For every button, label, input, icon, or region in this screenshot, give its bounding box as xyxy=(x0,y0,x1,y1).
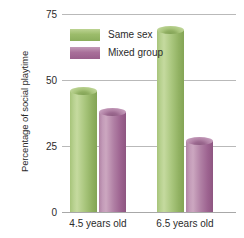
bar-top-ellipse xyxy=(186,137,213,145)
legend-item: Mixed group xyxy=(70,46,163,59)
y-tick-label: 25 xyxy=(46,141,57,152)
x-axis-baseline xyxy=(62,212,236,213)
bar-body xyxy=(99,112,126,212)
y-axis-title: Percentage of social playtime xyxy=(19,22,30,202)
legend-label: Same sex xyxy=(108,29,152,40)
x-axis-category-label: 6.5 years old xyxy=(156,218,213,229)
legend-item: Same sex xyxy=(70,28,163,41)
y-tick-label: 50 xyxy=(46,75,57,86)
bar-same-sex xyxy=(70,91,97,212)
chart-legend: Same sexMixed group xyxy=(70,28,163,64)
bar-top-ellipse xyxy=(99,108,126,116)
bar-body xyxy=(70,91,97,212)
y-tick-label: 75 xyxy=(46,9,57,20)
gridline xyxy=(62,80,236,81)
bar-mixed-group xyxy=(186,141,213,212)
x-axis-category-label: 4.5 years old xyxy=(69,218,126,229)
legend-swatch-mixed-group xyxy=(70,47,100,59)
legend-label: Mixed group xyxy=(108,47,163,58)
y-tick-label: 0 xyxy=(51,207,57,218)
legend-swatch-same-sex xyxy=(70,29,100,41)
bar-mixed-group xyxy=(99,112,126,212)
bar-chart: Percentage of social playtime 0255075 Sa… xyxy=(0,0,244,238)
bar-body xyxy=(186,141,213,212)
gridline xyxy=(62,14,236,15)
bar-top-ellipse xyxy=(70,87,97,95)
